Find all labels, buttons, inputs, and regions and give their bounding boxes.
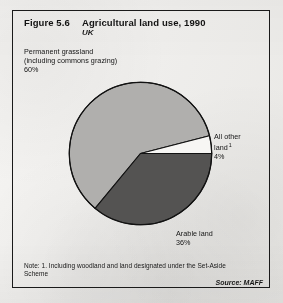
figure-source: Source: MAFF [216,279,263,286]
pie-label-other-line1: All other [214,132,241,141]
pie-label-other-line2: land1 [214,141,241,152]
pie-label-grassland-value: 60% [24,65,117,74]
pie-label-arable-line1: Arable land [176,229,213,238]
pie-slices [69,82,211,224]
pie-label-arable-value: 36% [176,238,213,247]
figure-note: Note: 1. Including woodland and land des… [24,262,246,279]
pie-label-grassland-line1: Permanent grassland [24,47,117,56]
figure-title: Agricultural land use, 1990 [82,17,206,28]
pie-label-other-line2-text: land [214,143,228,152]
pie-label-all-other-land: All other land1 4% [214,132,241,161]
figure-screenshot: Figure 5.6 Agricultural land use, 1990 U… [0,0,283,303]
pie-label-other-value: 4% [214,152,241,161]
footnote-marker: 1 [228,142,232,148]
figure-subtitle: UK [82,28,94,37]
pie-label-arable-land: Arable land 36% [176,229,213,247]
pie-chart [68,81,213,226]
figure-number: Figure 5.6 [24,17,70,28]
pie-label-grassland-line2: (including commons grazing) [24,56,117,65]
pie-label-permanent-grassland: Permanent grassland (including commons g… [24,47,117,74]
